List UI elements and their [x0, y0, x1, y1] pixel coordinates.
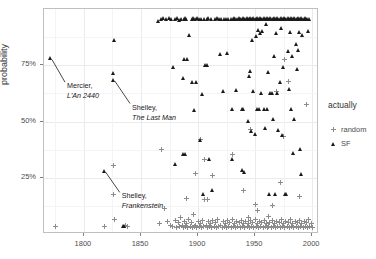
triangle-icon	[328, 138, 339, 149]
data-point-random	[241, 188, 246, 193]
data-point-sf	[230, 107, 234, 111]
data-point-sf	[290, 54, 294, 58]
gridline-vertical	[198, 9, 199, 232]
data-point-sf	[271, 117, 275, 121]
data-point-sf	[294, 42, 298, 46]
data-point-sf	[112, 38, 116, 42]
data-point-random	[215, 217, 220, 222]
x-axis-tick-mark	[197, 233, 198, 236]
data-point-sf	[275, 91, 279, 95]
chart-root: probability 25%50%75%1800185019001950200…	[0, 0, 376, 259]
data-point-sf	[287, 87, 291, 91]
data-point-random	[159, 147, 164, 152]
gridline-horizontal	[44, 178, 317, 179]
gridline-vertical-minor	[112, 9, 113, 232]
data-point-random	[112, 217, 117, 222]
data-point-sf	[207, 157, 211, 161]
data-point-sf	[242, 170, 246, 174]
data-point-random	[310, 225, 315, 230]
x-axis-tick-label: 1850	[132, 239, 149, 248]
data-point-sf	[276, 128, 280, 132]
data-point-sf	[122, 224, 126, 228]
data-point-sf	[257, 107, 261, 111]
data-point-sf	[225, 51, 229, 55]
y-axis-tick-label: 50%	[21, 116, 36, 125]
data-point-random	[111, 192, 116, 197]
legend-label-random: random	[341, 125, 366, 134]
data-point-random	[111, 163, 116, 168]
data-point-random	[253, 202, 258, 207]
y-axis-tick-mark	[40, 121, 43, 122]
y-axis-title: probability	[0, 44, 9, 85]
data-point-random	[102, 224, 107, 229]
x-axis-tick-mark	[254, 233, 255, 236]
annotation-author: Shelley,	[132, 103, 176, 113]
data-point-random	[282, 57, 287, 62]
data-point-random	[53, 224, 58, 229]
legend-item-sf[interactable]: SF	[328, 138, 376, 149]
gridline-horizontal	[44, 65, 317, 66]
data-point-random	[230, 152, 235, 157]
data-point-random	[184, 196, 189, 201]
legend-title: actually	[328, 100, 376, 110]
data-point-sf	[286, 49, 290, 53]
gridline-horizontal	[44, 122, 317, 123]
data-point-sf	[298, 147, 302, 151]
data-point-random	[193, 171, 198, 176]
y-axis-tick-mark	[40, 64, 43, 65]
gridline-vertical	[255, 9, 256, 232]
data-point-sf	[171, 65, 175, 69]
data-point-sf	[274, 31, 278, 35]
x-axis-tick-label: 1900	[189, 239, 206, 248]
data-point-sf	[48, 56, 52, 60]
annotation-shelley-last-man: Shelley,The Last Man	[132, 103, 176, 123]
data-point-sf	[200, 92, 204, 96]
data-point-sf	[221, 89, 225, 93]
data-point-sf	[183, 152, 187, 156]
data-point-sf	[192, 108, 196, 112]
legend: actually random SF	[328, 100, 376, 152]
data-point-random	[270, 203, 275, 208]
data-point-sf	[241, 107, 245, 111]
data-point-random	[255, 208, 260, 213]
data-point-random	[210, 173, 215, 178]
x-axis-tick-mark	[311, 233, 312, 236]
data-point-sf	[264, 22, 268, 26]
annotation-mercier: Mercier,L'An 2440	[67, 81, 99, 101]
data-point-sf	[300, 33, 304, 37]
data-point-sf	[250, 38, 254, 42]
data-point-sf	[307, 17, 311, 21]
data-point-sf	[230, 157, 234, 161]
data-point-sf	[284, 192, 288, 196]
data-point-sf	[299, 172, 303, 176]
gridline-vertical	[84, 9, 85, 232]
data-point-random	[157, 221, 162, 226]
data-point-sf	[292, 117, 296, 121]
annotation-title: The Last Man	[132, 113, 176, 123]
data-point-sf	[265, 107, 269, 111]
data-point-random	[278, 180, 283, 185]
data-point-sf	[291, 151, 295, 155]
data-point-sf	[190, 80, 194, 84]
data-point-sf	[246, 119, 250, 123]
x-axis-tick-label: 2000	[303, 239, 320, 248]
data-point-sf	[266, 70, 270, 74]
data-point-sf	[187, 33, 191, 37]
x-axis-tick-label: 1950	[246, 239, 263, 248]
gridline-horizontal-minor	[44, 206, 317, 207]
annotation-author: Mercier,	[67, 81, 99, 91]
data-point-sf	[259, 91, 263, 95]
data-point-sf	[181, 76, 185, 80]
data-point-sf	[111, 78, 115, 82]
data-point-sf	[173, 162, 177, 166]
annotation-title: Frankenstein	[122, 201, 164, 211]
data-point-random	[286, 79, 291, 84]
legend-item-random[interactable]: random	[328, 124, 376, 135]
data-point-random	[297, 194, 302, 199]
data-point-sf	[218, 52, 222, 56]
data-point-sf	[295, 67, 299, 71]
data-point-sf	[296, 48, 300, 52]
data-point-sf	[260, 29, 264, 33]
gridline-horizontal-minor	[44, 150, 317, 151]
data-point-sf	[198, 138, 202, 142]
